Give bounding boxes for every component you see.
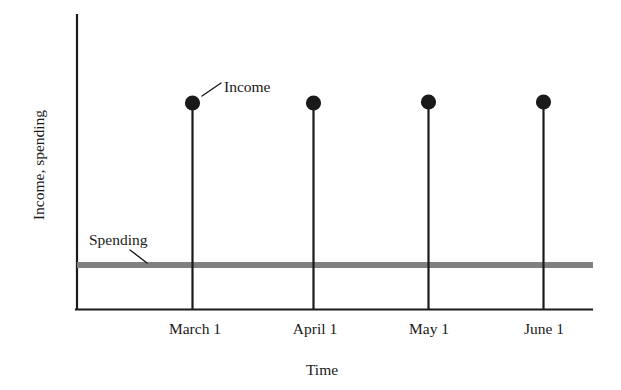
x-tick-label-april: April 1 xyxy=(293,320,337,337)
x-tick-label-june: June 1 xyxy=(524,320,564,337)
y-axis-title: Income, spending xyxy=(30,110,47,220)
x-tick-label-march: March 1 xyxy=(169,320,221,337)
income-spending-chart: Income Spending March 1 April 1 May 1 Ju… xyxy=(0,0,621,390)
x-tick-labels: March 1 April 1 May 1 June 1 xyxy=(169,320,564,337)
spending-leader-line xyxy=(130,250,147,263)
income-leader-line xyxy=(202,83,221,96)
x-axis-title: Time xyxy=(306,361,338,378)
x-tick-label-may: May 1 xyxy=(409,320,449,337)
income-marker-june xyxy=(536,94,551,109)
income-series xyxy=(185,94,551,309)
income-marker-april xyxy=(306,95,321,110)
income-marker-may xyxy=(421,94,436,109)
income-marker-march xyxy=(185,95,200,110)
spending-annotation-label: Spending xyxy=(89,231,148,248)
income-annotation-label: Income xyxy=(224,78,271,95)
chart-canvas: Income Spending March 1 April 1 May 1 Ju… xyxy=(0,0,621,390)
